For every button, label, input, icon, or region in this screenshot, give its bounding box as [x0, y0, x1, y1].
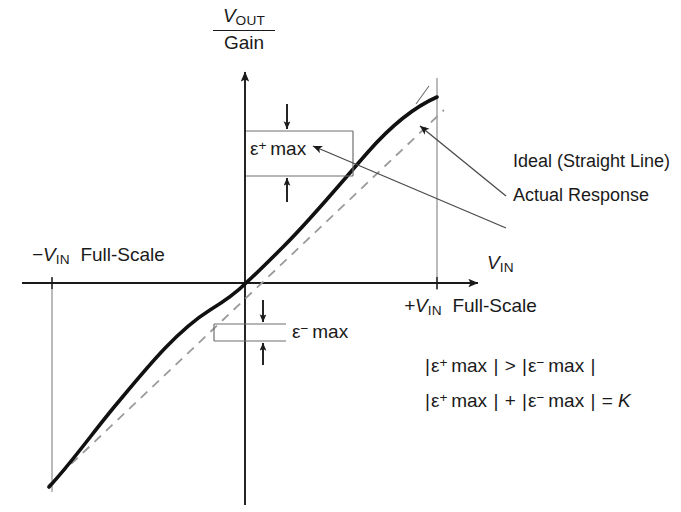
formula-inequality: |ε+ max | > |ε− max |: [424, 356, 596, 376]
neg-fs-symbol: −V: [32, 244, 56, 265]
formula1-lhs-text: max: [451, 355, 487, 376]
nonlinearity-error-diagram: VOUT Gain VIN −VIN Full-Scale +VIN Full-…: [0, 0, 681, 512]
eps-neg-text: max: [312, 321, 348, 342]
y-axis-denominator: Gain: [196, 33, 292, 53]
formula1-lhs-sign: +: [439, 355, 447, 370]
formula1-rhs-text: max: [548, 355, 584, 376]
formula-sum: |ε+ max | + |ε− max | = K: [424, 391, 631, 411]
eps-pos-text: max: [270, 138, 306, 159]
formula1-bar-open-rhs: |: [521, 355, 528, 376]
actual-leader-line: [313, 146, 506, 228]
epsilon-positive-max-label: ε+ max: [250, 139, 306, 159]
x-axis-symbol: V: [487, 252, 500, 273]
y-axis-numerator: VOUT: [196, 6, 292, 29]
formula2-bar-close-lhs: |: [492, 390, 499, 411]
formula2-lhs-sign: +: [439, 390, 447, 405]
actual-response-callout: Actual Response: [513, 186, 649, 205]
formula2-bar-close: |: [589, 390, 596, 411]
formula2-bar-open-rhs: |: [521, 390, 528, 411]
formula2-equals: =: [602, 390, 613, 411]
x-axis-subscript: IN: [500, 260, 514, 275]
formula1-bar-close: |: [589, 355, 596, 376]
ideal-leader-line: [420, 126, 506, 196]
formula1-rhs-sign: −: [536, 355, 544, 370]
epsilon-negative-max-label: ε− max: [292, 322, 348, 342]
formula2-lhs-text: max: [451, 390, 487, 411]
positive-full-scale-label: +VIN Full-Scale: [404, 296, 537, 318]
formula1-bar-close-lhs: |: [492, 355, 499, 376]
formula1-operator: >: [505, 355, 516, 376]
actual-response-curve: [49, 97, 437, 487]
pos-fs-text: Full-Scale: [452, 295, 536, 316]
formula2-result: K: [618, 390, 631, 411]
fraction-bar: [213, 30, 275, 31]
neg-fs-subscript: IN: [56, 252, 70, 267]
pos-fs-subscript: IN: [428, 303, 442, 318]
v-out-subscript: OUT: [236, 13, 265, 28]
negative-full-scale-label: −VIN Full-Scale: [32, 245, 165, 267]
eps-neg-sign: −: [300, 321, 308, 336]
eps-pos-sign: +: [258, 138, 266, 153]
v-out-symbol: V: [223, 5, 236, 26]
neg-fs-text: Full-Scale: [80, 244, 164, 265]
formula2-operator: +: [505, 390, 516, 411]
formula1-bar-open: |: [424, 355, 431, 376]
formula2-rhs-text: max: [548, 390, 584, 411]
x-axis-label: VIN: [487, 253, 514, 275]
pos-fs-symbol: +V: [404, 295, 428, 316]
formula2-bar-open: |: [424, 390, 431, 411]
ideal-straight-line: [48, 110, 444, 486]
formula2-rhs-sign: −: [536, 390, 544, 405]
ideal-line-callout: Ideal (Straight Line): [513, 152, 670, 171]
y-axis-title: VOUT Gain: [196, 6, 292, 53]
